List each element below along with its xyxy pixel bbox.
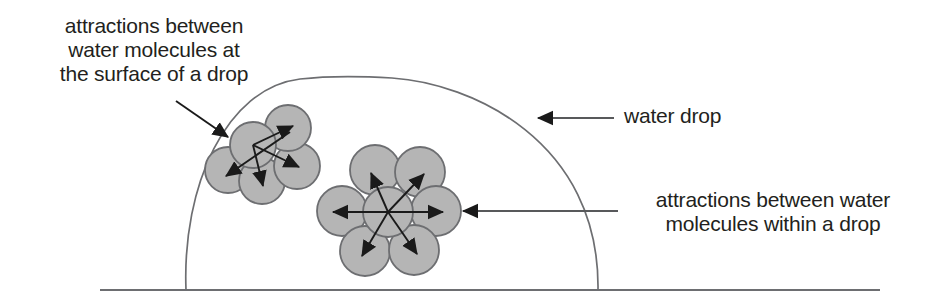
- label-water-drop: water drop: [624, 104, 824, 128]
- label-surface-attractions: attractions between water molecules at t…: [34, 14, 274, 86]
- diagram-canvas: attractions between water molecules at t…: [0, 0, 938, 307]
- surface-molecule-cluster: [205, 105, 320, 204]
- interior-molecule-cluster: [317, 145, 461, 276]
- label-interior-attractions: attractions between water molecules with…: [608, 188, 938, 236]
- leader-line-surface: [176, 101, 228, 137]
